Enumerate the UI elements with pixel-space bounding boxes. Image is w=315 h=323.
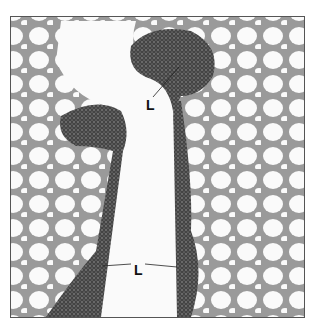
label-lymphoid-top: L — [146, 97, 155, 113]
micrograph-frame: L L — [10, 16, 305, 318]
label-lymphoid-bottom: L — [134, 262, 143, 278]
micrograph-image — [11, 17, 304, 317]
